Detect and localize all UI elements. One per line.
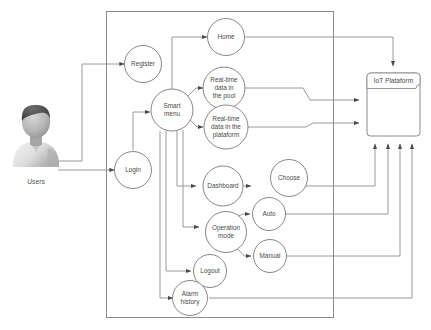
node-logout-label: Logout <box>200 267 220 275</box>
node-login[interactable]: Login <box>115 152 152 189</box>
diagram-canvas: IoT Plataform Register Login Smart menu … <box>0 0 431 330</box>
edge-rtplatform-platform <box>247 123 359 127</box>
edge-users-register <box>58 64 125 161</box>
node-login-label: Login <box>125 166 141 174</box>
iot-platform-label: IoT Plataform <box>374 77 414 84</box>
edge-smartmenu-home <box>172 37 207 89</box>
node-home-label: Home <box>217 33 234 40</box>
node-register[interactable]: Register <box>125 46 162 83</box>
node-choose[interactable]: Choose <box>271 160 308 197</box>
edge-smartmenu-operation <box>183 130 199 227</box>
node-operation-mode-label-line1: Operation <box>212 224 241 232</box>
edge-manual-platform <box>286 144 400 256</box>
node-alarm-history-label-line1: Alarm <box>182 290 199 297</box>
node-auto[interactable]: Auto <box>253 198 286 231</box>
edge-smartmenu-rtplatform <box>189 119 203 127</box>
edge-smartmenu-dashboard <box>177 131 196 186</box>
node-manual-label: Manual <box>260 252 281 259</box>
node-smart-menu-label-line1: Smart <box>163 102 180 109</box>
node-realtime-platform-label-line3: plataform <box>213 131 240 139</box>
node-realtime-pool[interactable]: Real-time data in the pool <box>203 67 245 109</box>
edge-smartmenu-logout <box>166 131 191 271</box>
node-manual[interactable]: Manual <box>254 240 287 273</box>
node-alarm-history-label-line2: history <box>181 298 201 306</box>
node-realtime-platform-label-line2: data in the <box>211 123 241 130</box>
node-smart-menu-label-line2: menu <box>164 110 180 117</box>
edge-home-platform <box>245 37 393 66</box>
node-realtime-pool-label-line2: data in <box>214 84 234 91</box>
flow-diagram: IoT Plataform Register Login Smart menu … <box>0 0 431 330</box>
node-register-label: Register <box>131 60 156 68</box>
edge-smartmenu-rtpool <box>187 88 203 97</box>
node-realtime-platform[interactable]: Real-time data in the plataform <box>204 105 248 149</box>
node-realtime-platform-label-line1: Real-time <box>212 115 240 122</box>
node-operation-mode-label-line2: mode <box>218 232 234 239</box>
node-realtime-pool-label-line1: Real-time <box>210 76 238 83</box>
node-auto-label: Auto <box>262 210 276 217</box>
edge-smartmenu-alarm <box>160 131 173 298</box>
node-dashboard-label: Dashboard <box>207 182 239 189</box>
node-alarm-history[interactable]: Alarm history <box>173 281 208 316</box>
node-operation-mode[interactable]: Operation mode <box>206 212 247 253</box>
iot-platform-node[interactable]: IoT Plataform <box>367 73 420 136</box>
edge-rtpool-platform <box>244 88 359 100</box>
users-actor[interactable]: Users <box>13 105 59 185</box>
node-choose-label: Choose <box>278 174 300 181</box>
user-avatar-icon <box>13 105 59 167</box>
node-smart-menu[interactable]: Smart menu <box>151 89 193 131</box>
edge-login-smartmenu <box>133 112 150 150</box>
node-home[interactable]: Home <box>208 19 245 56</box>
node-dashboard[interactable]: Dashboard <box>203 166 243 206</box>
users-actor-label: Users <box>27 178 45 185</box>
node-realtime-pool-label-line3: the pool <box>213 92 236 100</box>
